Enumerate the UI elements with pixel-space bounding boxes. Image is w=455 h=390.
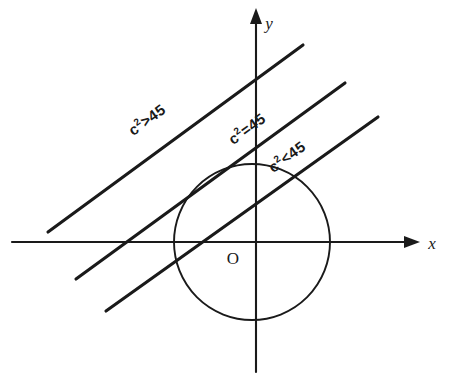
y-axis-label: y (263, 14, 273, 33)
label-c2-greater: c2>45 (124, 100, 168, 139)
figure-root: x y O c2>45 c2=45 c2<45 (0, 0, 455, 390)
origin-label: O (227, 249, 239, 268)
line-c2-less (106, 117, 378, 311)
y-axis-arrow-icon (250, 8, 262, 24)
label-group-c2-greater: c2>45 (124, 100, 168, 139)
x-axis-label: x (427, 234, 436, 253)
line-c2-greater (48, 45, 303, 232)
x-axis-arrow-icon (404, 236, 420, 248)
math-diagram: x y O c2>45 c2=45 c2<45 (0, 0, 455, 390)
